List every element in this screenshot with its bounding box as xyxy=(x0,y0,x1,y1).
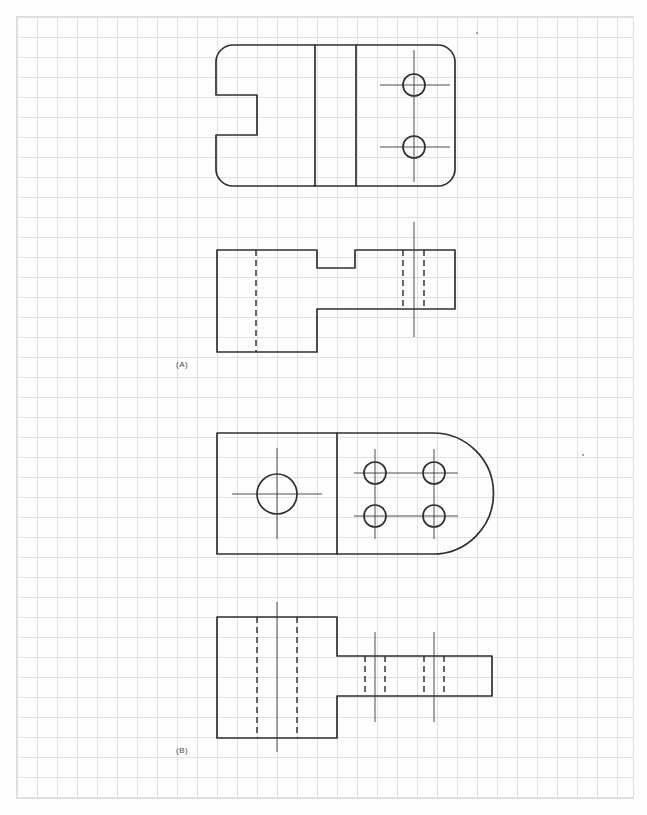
figure-a-label: (A) xyxy=(176,360,188,369)
figure-a-front-view xyxy=(217,222,455,352)
object-outline xyxy=(217,250,455,352)
object-outline xyxy=(217,617,492,738)
scan-speck xyxy=(476,32,478,34)
figure-a-top-view xyxy=(216,45,455,186)
figure-b-label: (B) xyxy=(176,746,188,755)
object-outline xyxy=(216,45,455,186)
figure-a xyxy=(216,45,455,352)
figure-b-top-view xyxy=(217,433,493,554)
technical-multiview-drawing xyxy=(0,0,647,815)
graph-paper-page: (A) (B) xyxy=(0,0,647,815)
scan-speck xyxy=(582,454,584,456)
figure-b-front-view xyxy=(217,602,492,752)
figure-b xyxy=(217,433,493,752)
